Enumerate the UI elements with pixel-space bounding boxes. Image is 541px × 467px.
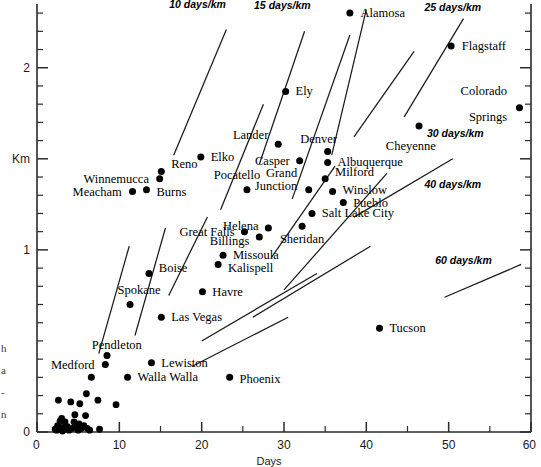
data-point xyxy=(226,374,233,381)
edge-text-fragment: a xyxy=(1,364,6,376)
data-point xyxy=(265,225,272,232)
data-point xyxy=(308,210,315,217)
data-point xyxy=(329,188,336,195)
data-point xyxy=(86,427,93,434)
data-point xyxy=(71,419,78,426)
data-point xyxy=(299,223,306,230)
data-point-label: Flagstaff xyxy=(462,39,507,53)
data-point xyxy=(322,175,329,182)
iso-line-label: 40 days/km xyxy=(423,178,481,190)
data-point xyxy=(66,427,73,434)
data-point xyxy=(416,123,423,130)
x-tick-label: 40 xyxy=(360,438,374,452)
iso-line-label: 25 days/km xyxy=(423,1,481,13)
x-tick-label: 60 xyxy=(523,438,537,452)
data-point xyxy=(88,374,95,381)
data-point-label: Milford xyxy=(335,165,375,179)
data-point xyxy=(296,157,303,164)
data-point xyxy=(143,186,150,193)
data-point xyxy=(256,234,263,241)
data-point-label: Cheyenne xyxy=(386,139,436,153)
data-point xyxy=(76,400,83,407)
data-point xyxy=(129,188,136,195)
data-point xyxy=(220,252,227,259)
iso-line-label: 10 days/km xyxy=(169,0,226,10)
data-point-label: Phoenix xyxy=(240,372,282,386)
data-point xyxy=(82,412,89,419)
chart-canvas: 012Km0102030405060Days10 days/km15 days/… xyxy=(0,0,541,467)
data-point xyxy=(127,301,134,308)
data-point xyxy=(75,427,82,434)
data-point-label: Billings xyxy=(210,234,250,248)
data-point-label: Lander xyxy=(233,128,269,142)
x-tick-label: 30 xyxy=(277,438,291,452)
data-point xyxy=(57,418,64,425)
iso-line xyxy=(404,19,463,117)
y-axis-title: Km xyxy=(12,152,30,166)
data-point xyxy=(148,359,155,366)
data-point xyxy=(158,168,165,175)
iso-line-label: 15 days/km xyxy=(254,0,311,11)
data-point-label: Meacham xyxy=(73,185,123,199)
data-point xyxy=(53,427,60,434)
data-point xyxy=(199,288,206,295)
data-point xyxy=(59,428,66,435)
data-point xyxy=(124,374,131,381)
data-point-label: Havre xyxy=(212,285,243,299)
data-point xyxy=(340,199,347,206)
data-point xyxy=(324,148,331,155)
data-point xyxy=(275,141,282,148)
data-point-label: Pocatello xyxy=(214,168,261,182)
data-point xyxy=(83,390,90,397)
scatter-chart: 012Km0102030405060Days10 days/km15 days/… xyxy=(0,0,541,467)
x-tick-label: 10 xyxy=(113,438,127,452)
data-point-label: Pendleton xyxy=(92,338,143,352)
data-point xyxy=(102,361,109,368)
data-point xyxy=(346,10,353,17)
data-point-label: Boise xyxy=(159,261,188,275)
data-point-label: Salt Lake City xyxy=(322,206,395,220)
data-point xyxy=(376,325,383,332)
iso-line-label: 30 days/km xyxy=(427,127,484,139)
data-point xyxy=(448,42,455,49)
x-tick-label: 50 xyxy=(442,438,456,452)
iso-line-label: 60 days/km xyxy=(435,254,492,266)
data-point xyxy=(305,186,312,193)
data-point-label: Sheridan xyxy=(280,232,325,246)
data-point-label: Elko xyxy=(211,150,235,164)
x-tick-label: 0 xyxy=(33,438,40,452)
data-point-label: Colorado xyxy=(461,84,508,98)
data-point-label: Ely xyxy=(296,84,314,98)
data-point xyxy=(96,426,103,433)
data-point-label: Las Vegas xyxy=(171,310,222,324)
data-point xyxy=(156,175,163,182)
data-point-label: Medford xyxy=(51,358,95,372)
data-point xyxy=(282,88,289,95)
iso-line xyxy=(354,51,414,137)
data-point xyxy=(516,104,523,111)
data-point xyxy=(324,159,331,166)
y-tick-label: 0 xyxy=(23,425,30,439)
data-point-label: Spokane xyxy=(118,283,162,297)
data-point-label: Springs xyxy=(469,110,507,124)
data-point xyxy=(197,153,204,160)
data-point-label: Alamosa xyxy=(361,6,406,20)
data-point xyxy=(113,401,120,408)
iso-line xyxy=(202,274,317,341)
y-tick-label: 2 xyxy=(23,61,30,75)
data-point xyxy=(67,399,74,406)
data-point-label: Walla Walla xyxy=(137,370,198,384)
data-point-label: Burns xyxy=(156,185,186,199)
data-point xyxy=(71,411,78,418)
data-point xyxy=(243,186,250,193)
iso-line xyxy=(174,29,227,155)
data-point-label: Denver xyxy=(300,132,338,146)
data-point xyxy=(55,397,62,404)
iso-line xyxy=(445,264,522,297)
data-point xyxy=(215,261,222,268)
data-point-label: Tucson xyxy=(389,321,426,335)
data-point-label: Lewiston xyxy=(161,356,208,370)
data-point-label: Junction xyxy=(255,179,298,193)
edge-text-fragment: n xyxy=(1,408,7,420)
edge-text-fragment: - xyxy=(1,386,5,398)
